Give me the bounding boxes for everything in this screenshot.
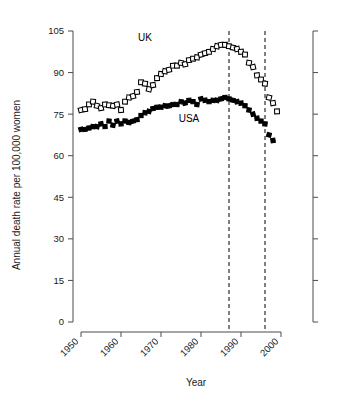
data-point (103, 124, 107, 128)
data-point (150, 82, 155, 87)
data-point (263, 121, 268, 126)
x-tick-label: 2000 (258, 336, 281, 359)
y-tick-label: 75 (53, 109, 64, 120)
series-label-uk: UK (138, 32, 152, 43)
data-point (142, 81, 147, 86)
x-tick-label: 1990 (218, 336, 241, 359)
y-tick-label: 90 (53, 67, 64, 78)
data-point (266, 95, 272, 101)
y-tick-label: 30 (53, 233, 64, 244)
y-axis: 0153045607590105 (48, 25, 73, 327)
data-point (270, 100, 275, 105)
data-point (275, 109, 280, 114)
right-axis (313, 31, 318, 322)
data-point (243, 52, 248, 57)
x-axis-title: Year (186, 377, 207, 388)
data-point (250, 112, 255, 117)
data-point (107, 119, 111, 123)
series-label-usa: USA (179, 113, 200, 124)
data-point (247, 108, 252, 113)
y-axis-title: Annual death rate per 100,000 women (11, 100, 22, 270)
x-tick-label: 1960 (98, 336, 121, 359)
x-tick-label: 1970 (138, 336, 161, 359)
data-point (262, 81, 267, 86)
data-point (259, 119, 263, 123)
y-tick-label: 45 (53, 192, 64, 203)
data-point (250, 64, 256, 70)
data-point (134, 89, 139, 94)
y-tick-label: 105 (48, 25, 64, 36)
data-point (114, 102, 120, 108)
data-point (111, 123, 116, 128)
chart-plot-area: 0153045607590105 19501960197019801990200… (0, 0, 338, 394)
data-point (195, 102, 200, 107)
x-tick-label: 1950 (58, 336, 81, 359)
data-point (243, 104, 247, 108)
y-tick-label: 15 (53, 275, 64, 286)
data-point (191, 100, 195, 104)
data-point (271, 138, 276, 143)
data-point (118, 107, 123, 112)
chart-figure: 0153045607590105 19501960197019801990200… (0, 0, 338, 394)
data-series (78, 42, 279, 143)
y-tick-label: 60 (53, 150, 64, 161)
x-tick-label: 1980 (178, 336, 201, 359)
x-axis: 195019601970198019902000 (58, 332, 281, 358)
y-tick-label: 0 (59, 316, 64, 327)
data-point (266, 132, 271, 137)
